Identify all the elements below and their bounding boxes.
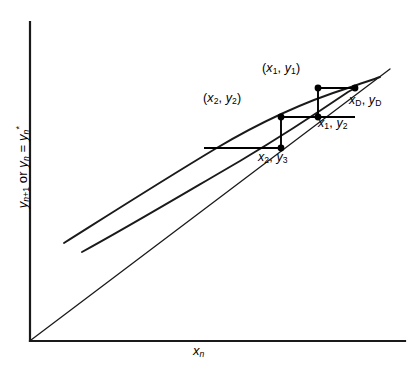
label-x1-y2: x1, y2 [318, 117, 348, 131]
point-x2-y2-marker [278, 114, 285, 121]
diagonal-45-line [31, 69, 390, 340]
x-axis-label: xn [193, 344, 205, 358]
label-x2-y2: (x2, y2) [203, 92, 241, 106]
label-x1-y1: (x1, y1) [262, 62, 300, 76]
y-axis-label: yn+1 or yn = yn* [16, 102, 30, 232]
label-xD-yD: xD, yD [349, 94, 382, 108]
plot-canvas [0, 0, 410, 372]
point-x1-y1-marker [315, 85, 322, 92]
point-xD-yD-marker [352, 85, 359, 92]
operating-curve [82, 87, 357, 252]
label-x2-y3: x2, y3 [258, 151, 288, 165]
mccabe-thiele-figure: (x1, y1) (x2, y2) xD, yD x1, y2 x2, y3 x… [0, 0, 410, 372]
